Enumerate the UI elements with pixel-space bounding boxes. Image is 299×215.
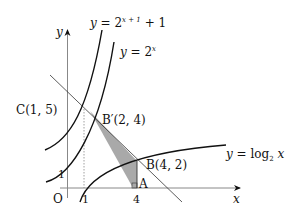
- tick-x4-label: 4: [133, 193, 140, 206]
- curve-shifted-label: y = 2x + 1 + 1: [89, 16, 166, 30]
- x-axis-label: x: [233, 192, 240, 206]
- point-Bprime-label: B′(2, 4): [102, 113, 146, 127]
- tick-x1-label: 1: [82, 193, 89, 206]
- line-CB: [50, 75, 182, 202]
- curve-log2-x: [80, 145, 226, 202]
- curve-2-pow-x-plus-1-plus-1: [45, 30, 102, 150]
- curve-log-label: y = log2 x: [225, 147, 285, 163]
- point-A-label: A: [138, 177, 148, 191]
- curve-exp-label: y = 2x: [119, 45, 156, 59]
- origin-label: O: [53, 192, 63, 206]
- point-C-label: C(1, 5): [16, 103, 57, 117]
- y-axis-label: y: [55, 25, 63, 39]
- tick-y1-label: 1: [58, 168, 65, 181]
- diagram-canvas: y x O 1 4 1 y = 2x + 1 + 1 y = 2x y = lo…: [0, 0, 299, 215]
- point-B-label: B(4, 2): [146, 158, 187, 172]
